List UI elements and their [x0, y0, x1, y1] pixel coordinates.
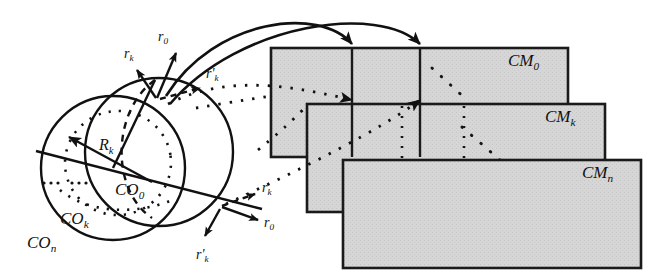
figure-canvas: CM0 CMk CMn: [0, 0, 668, 279]
co-k-label: COk: [60, 209, 90, 230]
vector-upper-r0-line: [157, 53, 176, 98]
radius-vector-rk-line: [69, 137, 152, 182]
co-radial-line-upper: [113, 80, 155, 168]
vector-upper-r0-label: r0: [158, 29, 168, 46]
mapping-dotted-lead: [196, 96, 271, 108]
vector-lower-rk-label: rk: [262, 180, 272, 197]
co-n-label: COn: [27, 233, 57, 254]
co-0-label: CO0: [115, 180, 145, 201]
vector-lower-rk-prime-label: r'k: [196, 247, 209, 264]
vector-upper-rk-label: rk: [124, 46, 134, 63]
vector-lower-r0-line: [222, 207, 258, 220]
co-ellipsis: [42, 181, 87, 184]
panel-cm-n[interactable]: CMn: [343, 160, 641, 268]
radius-vector-rk: Rk: [69, 136, 152, 182]
vector-triad-lower: rk r0 r'k: [196, 180, 274, 264]
diagram-svg: CM0 CMk CMn: [0, 0, 668, 279]
vector-lower-r0-label: r0: [264, 215, 274, 232]
vector-lower-rk-prime-line: [205, 209, 220, 236]
